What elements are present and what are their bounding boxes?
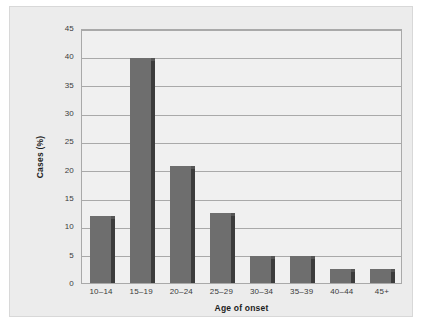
chart-figure-panel: 051015202530354045 Cases (%) 10–1415–192… bbox=[9, 6, 413, 317]
y-axis-tick-label: 10 bbox=[65, 223, 74, 231]
y-axis-tick-label: 25 bbox=[65, 138, 74, 146]
y-axis-tick-label: 15 bbox=[65, 195, 74, 203]
x-axis-tick-label: 15–19 bbox=[130, 288, 153, 296]
bar-top-bevel bbox=[111, 216, 115, 219]
y-axis-tick-label: 35 bbox=[65, 82, 74, 90]
x-axis: 10–1415–1920–2425–2930–3435–3940–4445+ bbox=[81, 288, 402, 304]
y-axis-tick-label: 40 bbox=[65, 53, 74, 61]
bar-face bbox=[370, 269, 391, 283]
bar-face bbox=[250, 256, 271, 283]
bar-face bbox=[170, 166, 191, 283]
bar bbox=[130, 58, 155, 283]
bar-face bbox=[210, 213, 231, 283]
bar-side-shadow bbox=[151, 61, 155, 283]
bar-top-bevel bbox=[191, 166, 195, 169]
bar-side-shadow bbox=[391, 272, 395, 283]
y-axis-tick-label: 20 bbox=[65, 167, 74, 175]
bar bbox=[170, 166, 195, 283]
bar bbox=[210, 213, 235, 283]
x-axis-tick-label: 25–29 bbox=[210, 288, 233, 296]
x-axis-tick-label: 40–44 bbox=[330, 288, 353, 296]
x-axis-tick-label: 10–14 bbox=[89, 288, 112, 296]
bar-side-shadow bbox=[191, 169, 195, 283]
bar-side-shadow bbox=[311, 259, 315, 283]
y-axis: 051015202530354045 bbox=[10, 7, 81, 307]
bar-top-bevel bbox=[311, 256, 315, 259]
bar-side-shadow bbox=[111, 219, 115, 283]
bar-face bbox=[330, 269, 351, 283]
x-axis-tick-label: 30–34 bbox=[250, 288, 273, 296]
bar-side-shadow bbox=[351, 272, 355, 283]
bar-top-bevel bbox=[151, 58, 155, 61]
bar-side-shadow bbox=[231, 216, 235, 283]
bar bbox=[250, 256, 275, 283]
y-axis-title: Cases (%) bbox=[35, 136, 45, 178]
bar-face bbox=[130, 58, 151, 283]
bar bbox=[330, 269, 355, 283]
bar bbox=[90, 216, 115, 283]
gridline bbox=[82, 30, 401, 31]
y-axis-tick-label: 5 bbox=[69, 252, 74, 260]
bar-top-bevel bbox=[271, 256, 275, 259]
x-axis-tick-label: 35–39 bbox=[290, 288, 313, 296]
bar-top-bevel bbox=[351, 269, 355, 272]
bar bbox=[290, 256, 315, 283]
plot-area bbox=[81, 29, 402, 284]
bar-top-bevel bbox=[231, 213, 235, 216]
x-axis-title: Age of onset bbox=[81, 303, 402, 313]
bar-side-shadow bbox=[271, 259, 275, 283]
bar-face bbox=[90, 216, 111, 283]
bar bbox=[370, 269, 395, 283]
x-axis-tick-label: 45+ bbox=[375, 288, 389, 296]
y-axis-tick-label: 30 bbox=[65, 110, 74, 118]
y-axis-tick-label: 0 bbox=[69, 280, 74, 288]
x-axis-tick-label: 20–24 bbox=[170, 288, 193, 296]
bar-top-bevel bbox=[391, 269, 395, 272]
bar-face bbox=[290, 256, 311, 283]
y-axis-tick-label: 45 bbox=[65, 25, 74, 33]
